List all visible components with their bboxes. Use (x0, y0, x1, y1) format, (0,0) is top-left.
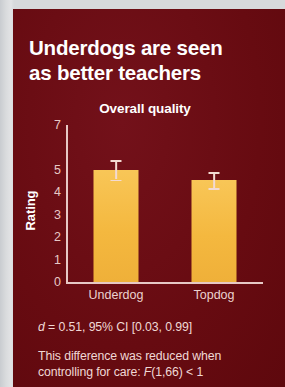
y-tick-7: 7 (35, 118, 61, 132)
bar-chart: Rating 7543210 UnderdogTopdog (13, 125, 285, 307)
x-tick-underdog: Underdog (67, 288, 165, 302)
slide-card: Underdogs are seen as better teachers Ov… (13, 9, 285, 387)
page-background: Underdogs are seen as better teachers Ov… (0, 0, 285, 387)
error-bar-topdog (213, 172, 215, 188)
page-title-line-2: as better teachers (29, 60, 269, 85)
error-cap-upper-underdog (111, 160, 122, 162)
error-cap-upper-topdog (209, 172, 220, 174)
y-tick-3: 3 (35, 208, 61, 222)
y-tick-1: 1 (35, 253, 61, 267)
effect-size-symbol: d (38, 320, 45, 334)
bar-group-topdog (165, 125, 263, 282)
bar-group-underdog (67, 125, 165, 282)
bar-topdog (192, 180, 237, 282)
page-title: Underdogs are seen as better teachers (13, 35, 285, 85)
chart-title: Overall quality (13, 101, 285, 116)
error-cap-lower-topdog (209, 188, 220, 190)
footnote-part-2: (1,66) < 1 (151, 365, 203, 379)
error-cap-lower-underdog (111, 180, 122, 182)
error-bar-underdog (115, 160, 117, 179)
effect-size-text: d = 0.51, 95% CI [0.03, 0.99] (38, 320, 285, 334)
bars-area: UnderdogTopdog (67, 125, 263, 282)
bar-underdog (94, 170, 139, 282)
y-tick-0: 0 (35, 275, 61, 289)
footnote-text: This difference was reduced when control… (38, 349, 262, 380)
y-tick-2: 2 (35, 230, 61, 244)
x-axis-line (66, 282, 263, 284)
y-axis-ticks: 7543210 (31, 125, 61, 282)
effect-size-value: = 0.51, 95% CI [0.03, 0.99] (45, 320, 192, 334)
y-tick-5: 5 (35, 163, 61, 177)
x-tick-topdog: Topdog (165, 288, 263, 302)
page-title-line-1: Underdogs are seen (29, 35, 269, 60)
y-tick-4: 4 (35, 185, 61, 199)
